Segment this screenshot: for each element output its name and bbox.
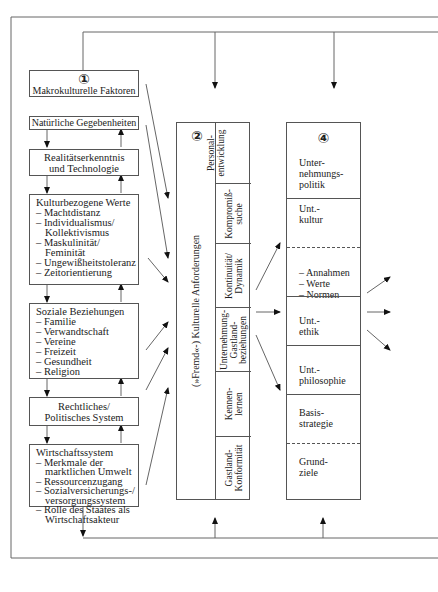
factor-list-item: – Zeitorientierung [36, 268, 138, 278]
factor-title: Natürliche Gegebenheiten [30, 117, 138, 129]
cell-corporate-policy: Unter- nehmungs- politik [287, 149, 352, 197]
factor-list-item: – Religion [36, 367, 138, 377]
cell-corporate-philosophy: Unt.- philosophie [287, 345, 360, 394]
cell-assumptions-values-norms: – Annahmen – Werte – Normen [287, 247, 360, 296]
cell-corporate-ethics: Unt.- ethik [287, 296, 360, 345]
number-4-badge: ④ [287, 131, 360, 145]
factor-box-social-relations: Soziale Beziehungen – Familie – Verwandt… [29, 303, 139, 379]
number-1-badge: ① [30, 72, 138, 86]
factor-title: Realitätserkenntnis und Technologie [44, 152, 124, 174]
segment-company-host-relations: Unternehmung- Gastland- beziehungen [216, 307, 251, 371]
cell-basic-goals: Grund- ziele [287, 443, 360, 499]
factor-list-item: – Merkmale der marktlichen Umwelt [36, 458, 135, 477]
cultural-requirements-box: ② (»Fremd«-) Kulturelle Anforderungen Pe… [176, 122, 250, 500]
factor-box-legal-political: Rechtliches/ Politisches System [29, 397, 139, 426]
factor-list-item: – Maskulinität/ Feminität [36, 238, 115, 258]
segment-host-conformity: Gastland- Konformität [216, 436, 251, 499]
factor-box-natural-conditions: Natürliche Gegebenheiten [29, 116, 139, 130]
factor-list-item: – Rolle des Staates als Wirtschaftsakteu… [36, 505, 135, 524]
corporate-policy-box: ④ Unter- nehmungs- politik Unt.- kultur … [286, 122, 361, 500]
factor-box-reality-technology: Realitätserkenntnis und Technologie [29, 149, 139, 176]
cultural-requirements-label: (»Fremd«-) Kulturelle Anforderungen [191, 235, 201, 387]
macro-cultural-factors-box: ① Makrokulturelle Faktoren [29, 70, 139, 97]
factor-box-economic-system: Wirtschaftssystem – Merkmale der marktli… [29, 444, 139, 507]
cell-basic-strategy: Basis- strategie [287, 394, 360, 443]
macro-factors-title: Makrokulturelle Faktoren [30, 86, 138, 96]
factor-list-item: – Individualismus/ Kollektivismus [36, 218, 125, 238]
factor-list-item: – Sozialversicherungs-/ versorgungssyste… [36, 486, 135, 505]
segment-continuity-dynamics: Kontinuität/ Dynamik [216, 243, 251, 307]
cell-corporate-culture: Unt.- kultur [287, 198, 360, 247]
factor-box-cultural-values: Kulturbezogene Werte – Machtdistanz – In… [29, 194, 139, 285]
factor-title: Rechtliches/ Politisches System [44, 401, 124, 423]
segment-compromise: Kompromiß- suche [216, 183, 251, 243]
requirements-segments: Personal- entwicklung Kompromiß- suche K… [215, 123, 251, 499]
segment-getting-to-know: Kennen- lernen [216, 371, 251, 436]
